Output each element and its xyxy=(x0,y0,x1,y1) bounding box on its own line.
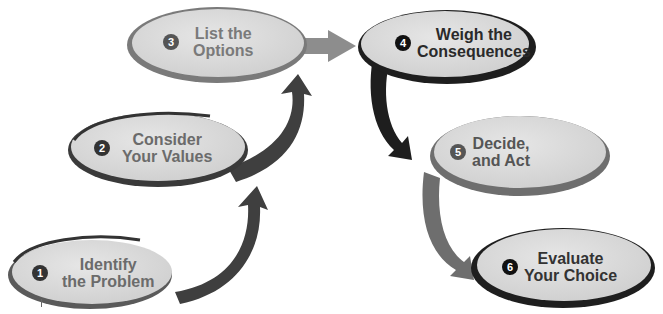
step-2: 2 Consider Your Values xyxy=(94,131,212,165)
step-1-number-badge: 1 xyxy=(32,265,48,281)
step-3: 3 List the Options xyxy=(163,25,253,59)
step-4: 4 Weigh the Consequences xyxy=(395,26,531,60)
step-4-text: Weigh the Consequences xyxy=(417,26,531,60)
tick-mark xyxy=(41,299,42,307)
arrow-1-to-2 xyxy=(175,186,268,304)
step-2-number-badge: 2 xyxy=(94,140,110,156)
step-5: 5 Decide, and Act xyxy=(450,135,530,169)
step-3-number-badge: 3 xyxy=(163,34,179,50)
step-5-number-badge: 5 xyxy=(450,144,466,160)
arrow-2-to-3 xyxy=(228,74,312,182)
step-4-number-badge: 4 xyxy=(395,35,411,51)
step-6: 6 Evaluate Your Choice xyxy=(502,250,617,284)
step-2-text: Consider Your Values xyxy=(122,131,212,165)
arrow-5-to-6 xyxy=(422,172,474,280)
step-6-number-badge: 6 xyxy=(502,259,518,275)
step-1: 1 Identify the Problem xyxy=(32,256,154,290)
step-5-text: Decide, and Act xyxy=(472,135,530,169)
step-6-text: Evaluate Your Choice xyxy=(524,250,617,284)
decision-process-diagram: 1 Identify the Problem 2 Consider Your V… xyxy=(0,0,663,314)
step-1-text: Identify the Problem xyxy=(62,256,154,290)
step-3-text: List the Options xyxy=(193,25,253,59)
arrow-3-to-4 xyxy=(300,30,356,62)
